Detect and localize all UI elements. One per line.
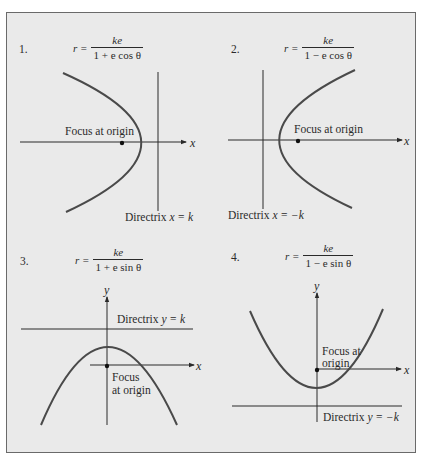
panel-2-x-label: x xyxy=(404,134,409,149)
panel-4-fraction: ke 1 − e sin θ xyxy=(303,242,353,269)
panel-2-numerator: ke xyxy=(321,34,335,47)
panel-4-formula: r = ke 1 − e sin θ xyxy=(285,242,353,269)
panel-1-formula-lhs: r = xyxy=(73,42,87,54)
panel-3-numerator: ke xyxy=(111,246,125,259)
panel-3-number: 3. xyxy=(20,256,29,268)
panel-2-parabola xyxy=(279,70,355,208)
panel-4-formula-lhs: r = xyxy=(285,250,299,262)
panel-4-directrix-prefix: Directrix xyxy=(323,411,367,423)
panel-1-formula: r = ke 1 + e cos θ xyxy=(73,34,143,61)
panel-2-formula-lhs: r = xyxy=(284,42,298,54)
panel-1-number: 1. xyxy=(19,44,28,56)
panel-3-x-label: x xyxy=(196,359,201,374)
panel-1-directrix-prefix: Directrix xyxy=(125,211,169,223)
panel-1-directrix-eq: x = k xyxy=(169,211,193,223)
panel-3-directrix-prefix: Directrix xyxy=(117,313,161,325)
panel-1-focus-label: Focus at origin xyxy=(65,126,134,138)
panel-4-directrix-eq: y = −k xyxy=(367,411,398,423)
panel-4-focus-label-line2: origin xyxy=(322,358,349,370)
panel-4-x-label: x xyxy=(404,363,409,378)
panel-1-graph xyxy=(20,72,186,212)
panel-2-directrix-label: Directrix x = −k xyxy=(228,210,304,222)
panel-2-directrix-eq: x = −k xyxy=(272,209,303,221)
panel-1-numerator: ke xyxy=(110,34,124,47)
panel-2-directrix-prefix: Directrix xyxy=(228,209,272,221)
panel-1-denominator: 1 + e cos θ xyxy=(91,47,143,61)
panel-4-denominator: 1 − e sin θ xyxy=(303,255,353,269)
panel-3-directrix-label: Directrix y = k xyxy=(117,314,185,326)
panel-1-focus-dot xyxy=(120,141,124,145)
panel-2-focus-dot xyxy=(296,139,300,143)
panel-4-graph xyxy=(232,293,402,422)
panel-3-formula-lhs: r = xyxy=(75,254,89,266)
panel-3-y-label: y xyxy=(104,283,109,298)
panel-3-formula: r = ke 1 + e sin θ xyxy=(75,246,143,273)
panel-2-fraction: ke 1 − e cos θ xyxy=(302,34,354,61)
panel-3-denominator: 1 + e sin θ xyxy=(93,259,143,273)
panel-4-directrix-label: Directrix y = −k xyxy=(323,412,399,424)
panel-3-focus-label-line1: Focus xyxy=(112,372,139,384)
panel-4-numerator: ke xyxy=(321,242,335,255)
panel-1-directrix-label: Directrix x = k xyxy=(125,212,193,224)
panel-3-focus-dot xyxy=(105,364,109,368)
panel-1-fraction: ke 1 + e cos θ xyxy=(91,34,143,61)
panel-2-focus-label: Focus at origin xyxy=(294,124,363,136)
panel-3-parabola xyxy=(41,347,177,425)
panel-3-directrix-eq: y = k xyxy=(161,313,185,325)
panel-4-focus-label-line1: Focus at xyxy=(322,346,361,358)
panel-4-number: 4. xyxy=(231,252,240,264)
panel-3-focus-label-line2: at origin xyxy=(112,385,151,397)
panel-3-fraction: ke 1 + e sin θ xyxy=(93,246,143,273)
panel-1-x-label: x xyxy=(190,136,195,151)
panel-4-focus-dot xyxy=(315,368,319,372)
panel-2-number: 2. xyxy=(231,44,240,56)
panel-2-denominator: 1 − e cos θ xyxy=(302,47,354,61)
panel-4-y-label: y xyxy=(314,279,319,294)
conic-diagrams xyxy=(0,0,425,465)
panel-2-graph xyxy=(228,70,402,209)
panel-2-formula: r = ke 1 − e cos θ xyxy=(284,34,354,61)
